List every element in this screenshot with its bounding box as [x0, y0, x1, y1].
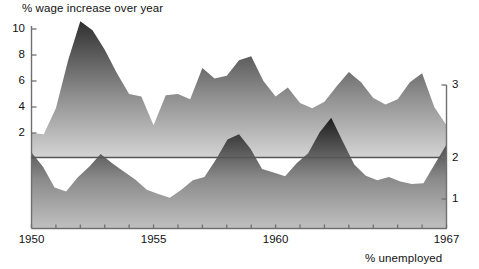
left-axis-tick-label: 10 [9, 22, 25, 34]
right-axis-tick-label: 1 [452, 192, 468, 204]
plot-areas [32, 21, 447, 228]
right-axis-tick-label: 2 [452, 151, 468, 163]
left-axis-tick-label: 4 [9, 100, 25, 112]
x-axis-tick-label: 1955 [132, 233, 176, 245]
chart-canvas [0, 0, 479, 269]
left-axis-tick-label: 6 [9, 74, 25, 86]
right-axis-tick-label: 3 [452, 78, 468, 90]
phillips-curve-figure: % wage increase over year % unemployed 1… [0, 0, 479, 269]
left-axis-tick-label: 2 [9, 126, 25, 138]
x-axis-title-unemployed: % unemployed [365, 252, 442, 264]
left-axis-tick-label: 8 [9, 48, 25, 60]
y-axis-title-wage: % wage increase over year [22, 2, 163, 14]
x-axis-tick-label: 1967 [425, 233, 469, 245]
x-axis-tick-label: 1960 [254, 233, 298, 245]
x-axis-tick-label: 1950 [10, 233, 54, 245]
